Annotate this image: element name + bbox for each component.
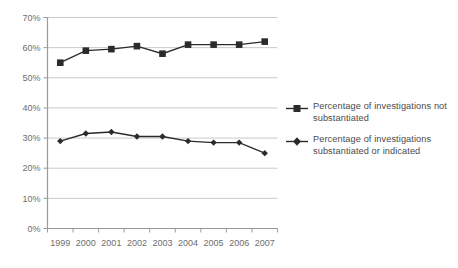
data-point-square — [210, 41, 217, 48]
legend-label-line2: substantiated — [313, 113, 447, 125]
x-tick-label: 1999 — [50, 238, 70, 248]
legend-item-substantiated-or-indicated: Percentage of investigations substantiat… — [285, 134, 458, 157]
y-tick-label: 50% — [22, 73, 40, 83]
y-tick-label: 60% — [22, 43, 40, 53]
y-tick-label: 70% — [22, 13, 40, 23]
y-tick-label: 20% — [22, 163, 40, 173]
data-point-diamond — [262, 150, 268, 156]
data-point-square — [83, 47, 90, 54]
data-point-square — [236, 41, 243, 48]
data-point-diamond — [210, 139, 216, 145]
x-tick-label: 2004 — [178, 238, 198, 248]
legend-label-line2: substantiated or indicated — [313, 146, 431, 158]
y-tick-labels: 0%10%20%30%40%50%60%70% — [22, 13, 40, 234]
x-tick-label: 2001 — [101, 238, 121, 248]
data-point-square — [261, 38, 268, 45]
data-point-diamond — [57, 138, 63, 144]
x-tick-label: 2003 — [152, 238, 172, 248]
legend-key-square-icon — [285, 102, 309, 115]
data-point-diamond — [108, 129, 114, 135]
data-point-square — [185, 41, 192, 48]
y-tick-label: 30% — [22, 133, 40, 143]
series-not-substantiated — [57, 38, 268, 66]
data-point-diamond — [134, 133, 140, 139]
x-tick-label: 2002 — [127, 238, 147, 248]
data-point-diamond — [83, 130, 89, 136]
data-point-diamond — [185, 138, 191, 144]
data-point-square — [108, 46, 115, 53]
legend-label-line1: Percentage of investigations — [313, 134, 431, 146]
y-tick-label: 40% — [22, 103, 40, 113]
chart-legend: Percentage of investigations not substan… — [285, 101, 458, 167]
legend-label-line1: Percentage of investigations not — [313, 101, 447, 113]
x-tick-label: 2000 — [76, 238, 96, 248]
y-tick-label: 10% — [22, 194, 40, 204]
data-point-square — [159, 50, 166, 57]
legend-label-substantiated-or-indicated: Percentage of investigations substantiat… — [313, 134, 431, 157]
x-tick-label: 2007 — [255, 238, 275, 248]
line-chart: 0%10%20%30%40%50%60%70% 1999200020012002… — [0, 0, 458, 268]
y-tick-label: 0% — [27, 224, 40, 234]
data-point-diamond — [159, 133, 165, 139]
x-tick-label: 2006 — [229, 238, 249, 248]
x-axis — [48, 229, 278, 233]
legend-label-not-substantiated: Percentage of investigations not substan… — [313, 101, 447, 124]
legend-item-not-substantiated: Percentage of investigations not substan… — [285, 101, 458, 124]
x-tick-labels: 199920002001200220032004200520062007 — [50, 238, 274, 248]
series-substantiated-or-indicated — [57, 129, 268, 157]
y-axis — [44, 18, 48, 229]
data-point-square — [134, 43, 141, 50]
legend-key-diamond-icon — [285, 135, 309, 148]
data-point-square — [57, 59, 64, 66]
data-point-diamond — [236, 139, 242, 145]
x-tick-label: 2005 — [204, 238, 224, 248]
